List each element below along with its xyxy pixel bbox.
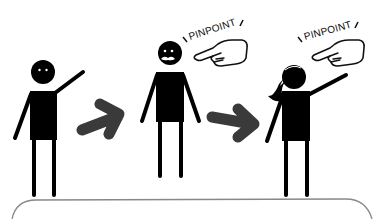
arrow-1	[82, 104, 119, 134]
pointing-hand-icon	[312, 40, 364, 66]
middle-person-right-arm	[183, 75, 199, 121]
left-person-eye-icon	[45, 69, 47, 71]
left-person	[15, 60, 83, 195]
callout-right-label: PINPOINT	[303, 19, 353, 42]
illustration-stage: PINPOINT PINPOINT	[0, 0, 378, 219]
middle-person	[142, 41, 199, 176]
left-person-body	[30, 91, 57, 140]
callout-middle: PINPOINT	[183, 16, 247, 66]
bottom-panel-border	[12, 199, 372, 219]
right-person-pointing-arm	[308, 75, 346, 95]
emphasis-tick-icon	[240, 20, 243, 26]
callout-right: PINPOINT	[298, 19, 364, 66]
right-person-head	[282, 65, 306, 89]
middle-person-body	[156, 72, 184, 122]
left-person-left-arm	[15, 94, 31, 138]
arrow-up-right-icon	[82, 104, 119, 134]
callout-middle-label: PINPOINT	[187, 16, 237, 42]
middle-person-head	[158, 41, 182, 65]
left-person-head	[31, 60, 55, 84]
arrow-right-icon	[212, 109, 254, 137]
middle-person-eye-icon	[164, 50, 167, 53]
right-person	[267, 65, 346, 195]
pointing-hand-icon	[194, 40, 247, 66]
right-person-left-arm	[267, 95, 283, 141]
emphasis-tick-icon	[355, 22, 358, 28]
emphasis-tick-icon	[298, 37, 302, 42]
arrow-2	[212, 109, 254, 137]
emphasis-tick-icon	[183, 37, 187, 42]
middle-person-eye-icon	[171, 50, 174, 53]
left-person-pointing-arm	[55, 72, 83, 93]
middle-person-left-arm	[142, 75, 157, 121]
left-person-eye-icon	[38, 69, 40, 71]
right-person-body	[282, 91, 310, 141]
